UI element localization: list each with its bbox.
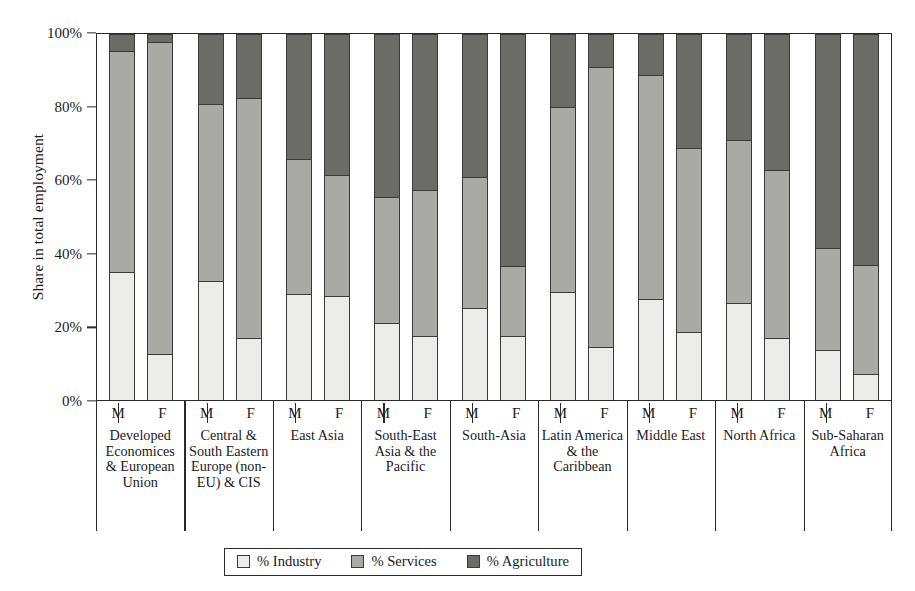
bar-segment-services[interactable] (109, 51, 135, 272)
bar-segment-industry[interactable] (500, 336, 526, 400)
bar-group (626, 34, 714, 399)
bar-segment-services[interactable] (500, 266, 526, 335)
bar-segment-industry[interactable] (109, 272, 135, 400)
bar-segment-services[interactable] (638, 75, 664, 300)
stacked-bar[interactable] (412, 34, 438, 399)
x-axis-subgroup-label-m: M (450, 401, 494, 425)
bar-segment-services[interactable] (764, 170, 790, 338)
bar-segment-industry[interactable] (638, 299, 664, 399)
bar-segment-industry[interactable] (236, 338, 262, 400)
bar-segment-services[interactable] (324, 175, 350, 296)
stacked-bar[interactable] (638, 34, 664, 399)
x-axis-group: MFEast Asia (273, 401, 361, 531)
bar-segment-industry[interactable] (764, 338, 790, 400)
bar-segment-agriculture[interactable] (236, 34, 262, 98)
bar-segment-agriculture[interactable] (726, 34, 752, 140)
bar-segment-industry[interactable] (462, 308, 488, 399)
bar-segment-agriculture[interactable] (198, 34, 224, 103)
x-axis-group: MFDeveloped Economices & European Union (96, 401, 184, 531)
bar-segment-industry[interactable] (198, 281, 224, 400)
stacked-bar[interactable] (853, 34, 879, 399)
bar-segment-industry[interactable] (815, 350, 841, 399)
bar-segment-industry[interactable] (412, 336, 438, 400)
y-axis-tick-label: 0% (62, 393, 82, 410)
subgroup-separator (737, 403, 738, 423)
x-axis-subgroup-label-m: M (538, 401, 582, 425)
bar-segment-industry[interactable] (286, 294, 312, 400)
bar-segment-agriculture[interactable] (676, 34, 702, 147)
bar-segment-agriculture[interactable] (815, 34, 841, 248)
bar-segment-services[interactable] (198, 104, 224, 281)
stacked-bar[interactable] (109, 34, 135, 399)
bar-segment-services[interactable] (815, 248, 841, 350)
x-axis-group: MFLatin America & the Caribbean (538, 401, 626, 531)
x-axis-subgroup-label-m: M (361, 401, 405, 425)
bar-segment-agriculture[interactable] (412, 34, 438, 189)
stacked-bar[interactable] (676, 34, 702, 399)
stacked-bar[interactable] (764, 34, 790, 399)
stacked-bar[interactable] (374, 34, 400, 399)
x-axis-subgroup-label-f: F (406, 401, 450, 425)
bar-segment-services[interactable] (676, 148, 702, 333)
bar-segment-agriculture[interactable] (500, 34, 526, 266)
y-axis-tick-labels: 100%80%60%40%20%0% (0, 33, 96, 401)
stacked-bar[interactable] (147, 34, 173, 399)
bar-segment-agriculture[interactable] (588, 34, 614, 67)
subgroup-separator (383, 403, 384, 423)
bar-segment-services[interactable] (462, 177, 488, 309)
stacked-bar[interactable] (286, 34, 312, 399)
x-axis-category-label: Latin America & the Caribbean (538, 425, 626, 475)
bar-segment-industry[interactable] (324, 296, 350, 400)
bar-segment-agriculture[interactable] (853, 34, 879, 264)
bar-segment-agriculture[interactable] (109, 34, 135, 50)
legend-label: % Agriculture (487, 553, 569, 570)
bar-segment-agriculture[interactable] (550, 34, 576, 107)
bar-segment-services[interactable] (286, 159, 312, 294)
x-axis-group: MFNorth Africa (715, 401, 803, 531)
bar-group (97, 34, 185, 399)
bar-segment-industry[interactable] (588, 347, 614, 400)
stacked-bar[interactable] (500, 34, 526, 399)
bar-segment-agriculture[interactable] (374, 34, 400, 197)
stacked-bar[interactable] (726, 34, 752, 399)
bar-segment-agriculture[interactable] (638, 34, 664, 74)
bar-segment-services[interactable] (588, 67, 614, 347)
stacked-bar[interactable] (588, 34, 614, 399)
bar-segment-industry[interactable] (147, 354, 173, 400)
subgroup-separator (826, 403, 827, 423)
stacked-bar[interactable] (815, 34, 841, 399)
legend-item[interactable]: % Agriculture (467, 553, 569, 570)
stacked-bar[interactable] (550, 34, 576, 399)
bar-segment-services[interactable] (726, 140, 752, 303)
stacked-bar[interactable] (324, 34, 350, 399)
bar-segment-industry[interactable] (550, 292, 576, 400)
stacked-bar[interactable] (236, 34, 262, 399)
bar-segment-agriculture[interactable] (462, 34, 488, 177)
y-axis-tick-label: 40% (55, 245, 83, 262)
bar-segment-agriculture[interactable] (147, 34, 173, 41)
x-axis-subgroup-label-m: M (804, 401, 848, 425)
bar-segment-services[interactable] (853, 265, 879, 375)
legend-item[interactable]: % Industry (237, 553, 321, 570)
bar-segment-industry[interactable] (676, 332, 702, 400)
bar-segment-services[interactable] (147, 42, 173, 354)
x-axis-subgroup-label-f: F (140, 401, 184, 425)
legend-item[interactable]: % Services (351, 553, 436, 570)
bar-segment-agriculture[interactable] (324, 34, 350, 175)
bar-segment-services[interactable] (374, 197, 400, 323)
bar-segment-services[interactable] (236, 98, 262, 337)
bar-segment-services[interactable] (412, 190, 438, 336)
legend-label: % Services (371, 553, 436, 570)
stacked-bar[interactable] (462, 34, 488, 399)
x-axis-subgroup-label-f: F (494, 401, 538, 425)
y-axis-tick-mark (87, 400, 96, 401)
bar-segment-agriculture[interactable] (764, 34, 790, 169)
bar-segment-industry[interactable] (726, 303, 752, 400)
bar-segment-industry[interactable] (374, 323, 400, 400)
bar-segment-agriculture[interactable] (286, 34, 312, 158)
bar-segment-services[interactable] (550, 107, 576, 292)
bar-segment-industry[interactable] (853, 374, 879, 400)
x-axis-category-label: Developed Economices & European Union (96, 425, 184, 490)
stacked-bar[interactable] (198, 34, 224, 399)
x-axis-subgroup-label-f: F (759, 401, 803, 425)
